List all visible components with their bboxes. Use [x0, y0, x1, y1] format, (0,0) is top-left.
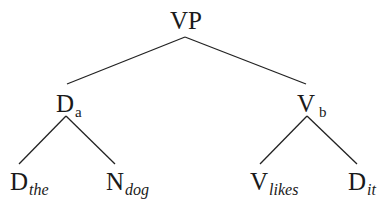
edge-vb-dit: [307, 116, 357, 164]
node-label: D: [348, 168, 366, 195]
node-label: D: [56, 90, 74, 117]
edge-vp-vb: [185, 37, 306, 84]
node-vb: Vb: [297, 91, 327, 116]
edge-da-dthe: [19, 116, 66, 164]
leaf-d-the: Dthe: [10, 169, 49, 194]
node-da: Da: [56, 91, 82, 116]
leaf-d-it: Dit: [348, 169, 376, 194]
node-label: V: [297, 90, 315, 117]
leaf-n-dog: Ndog: [106, 169, 149, 194]
node-subscript: a: [75, 104, 82, 120]
leaf-v-likes: Vlikes: [250, 169, 298, 194]
node-root-vp: VP: [170, 8, 202, 33]
node-label: VP: [170, 7, 202, 34]
node-subscript: dog: [125, 181, 149, 198]
node-label: N: [106, 168, 124, 195]
edge-vb-vlikes: [260, 116, 307, 164]
edge-da-ndog: [66, 116, 115, 164]
node-subscript: likes: [269, 181, 298, 198]
node-label: V: [250, 168, 268, 195]
node-label: D: [10, 168, 28, 195]
syntax-tree-diagram: VP Da Vb Dthe Ndog Vlikes Dit: [0, 0, 386, 207]
node-subscript: the: [29, 181, 49, 198]
node-subscript: it: [367, 181, 376, 198]
edge-vp-da: [67, 37, 185, 84]
node-subscript: b: [319, 104, 327, 120]
